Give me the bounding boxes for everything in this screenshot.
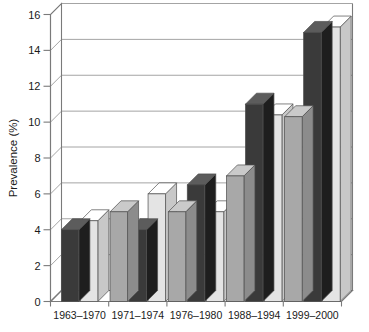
y-axis-title-text: Prevalence (%) (7, 119, 19, 198)
bar-side-face (205, 174, 216, 302)
bar-side-face (79, 219, 90, 302)
bar-front-face (285, 117, 303, 302)
y-tick-label: 14 (28, 44, 40, 56)
y-tick-label: 4 (34, 224, 40, 236)
y-axis-title: Prevalence (%) (7, 119, 19, 198)
x-tick-label: 1971–1974 (112, 309, 165, 321)
bar-gray (285, 106, 314, 302)
y-tick-label: 2 (34, 260, 40, 272)
bar-side-face (147, 219, 158, 302)
bar-gray (226, 165, 255, 302)
y-tick-label: 0 (34, 296, 40, 308)
y-tick-label: 16 (28, 9, 40, 21)
y-tick-label: 6 (34, 188, 40, 200)
x-tick-label: 1976–1980 (170, 309, 223, 321)
bar-side-face (98, 210, 109, 302)
bar-front-face (110, 212, 128, 302)
bar-side-face (263, 93, 274, 301)
bar-gray (110, 201, 139, 302)
bar-dark (61, 219, 90, 302)
bar-side-face (321, 21, 332, 301)
bar-side-face (244, 165, 255, 302)
bar-gray (168, 201, 197, 302)
bar-side-face (186, 201, 197, 302)
x-tick-label: 1988–1994 (228, 309, 281, 321)
bar-front-face (226, 176, 244, 302)
bar-side-face (302, 106, 313, 302)
bar-front-face (61, 230, 79, 302)
bar-side-face (340, 16, 351, 301)
bar-front-face (168, 212, 186, 302)
x-tick-label: 1963–1970 (53, 309, 106, 321)
bar-side-face (128, 201, 139, 302)
chart-canvas: 0246810121416 1963–19701971–19741976–198… (0, 0, 369, 332)
bar-chart: 0246810121416 1963–19701971–19741976–198… (0, 0, 369, 332)
x-tick-label: 1999–2000 (286, 309, 339, 321)
y-tick-label: 10 (28, 116, 40, 128)
y-tick-label: 8 (34, 152, 40, 164)
y-tick-label: 12 (28, 80, 40, 92)
